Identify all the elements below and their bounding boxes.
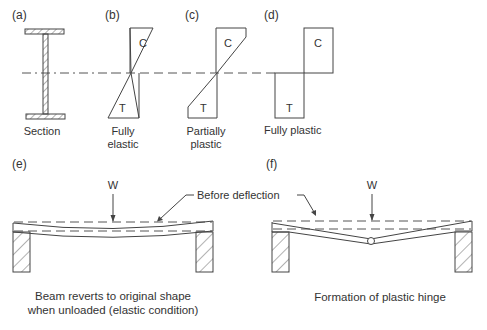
panel-b-caption-line1: Fully (111, 125, 135, 137)
compression-label: C (314, 37, 322, 49)
tension-label: T (286, 102, 293, 114)
panel-c-caption-line2: plastic (190, 138, 222, 150)
tension-label: T (200, 102, 207, 114)
panel-c-partially-plastic: (c) C T Partially plastic (185, 8, 246, 150)
panel-e-caption-line2: when unloaded (elastic condition) (27, 304, 199, 316)
left-support (272, 232, 289, 272)
compression-label: C (224, 37, 232, 49)
panel-a-tag: (a) (12, 8, 27, 22)
plastic-hinge-icon (368, 238, 375, 245)
panel-f-caption: Formation of plastic hinge (314, 291, 446, 303)
panel-a-caption: Section (24, 125, 61, 137)
load-arrow-icon (111, 215, 116, 222)
load-label: W (108, 179, 119, 191)
load-arrow-icon (370, 214, 375, 221)
right-support (196, 232, 213, 272)
panel-a-section: (a) Section (12, 8, 65, 137)
deflected-beam-bottom (13, 231, 213, 237)
deflected-beam-top (272, 221, 472, 239)
left-support (13, 232, 30, 272)
before-deflection-annotation: Before deflection (157, 189, 316, 222)
i-beam-section-icon (25, 29, 65, 119)
panel-f-plastic-hinge: (f) W Formation of plastic hinge (266, 157, 472, 303)
panel-e-elastic-beam: (e) W Beam reverts to original shape whe… (12, 157, 213, 316)
panel-e-tag: (e) (12, 157, 27, 171)
before-deflection-label: Before deflection (197, 189, 280, 201)
plastic-hinge-diagram: (a) Section (b) C T Fully elastic (c) C … (0, 0, 487, 330)
panel-b-caption-line2: elastic (107, 138, 139, 150)
compression-stress-block (130, 28, 153, 73)
compression-stress-block (216, 28, 246, 73)
panel-d-fully-plastic: (d) C T Fully plastic (264, 8, 333, 136)
panel-f-tag: (f) (266, 157, 277, 171)
compression-stress-block (304, 28, 333, 73)
compression-label: C (139, 37, 147, 49)
panel-b-fully-elastic: (b) C T Fully elastic (105, 8, 153, 150)
panel-d-caption: Fully plastic (264, 124, 322, 136)
panel-e-caption-line1: Beam reverts to original shape (35, 290, 191, 302)
panel-d-tag: (d) (264, 8, 279, 22)
right-support (455, 232, 472, 272)
panel-b-tag: (b) (105, 8, 120, 22)
panel-c-tag: (c) (185, 8, 199, 22)
panel-c-caption-line1: Partially (186, 125, 226, 137)
tension-label: T (119, 102, 126, 114)
load-label: W (367, 179, 378, 191)
